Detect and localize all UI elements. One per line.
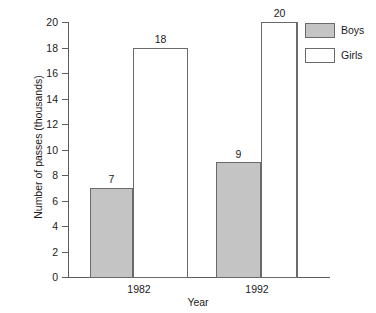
legend-item-boys[interactable]: Boys	[305, 20, 373, 40]
y-tick-mark	[62, 252, 68, 253]
bar-chart: 20 18 16 14 12 10 8 6 4 2 0 7 18 9 20 19…	[0, 0, 376, 313]
y-tick-mark	[62, 277, 68, 278]
y-tick-mark	[62, 124, 68, 125]
legend-label-boys: Boys	[341, 24, 364, 36]
legend-label-girls: Girls	[341, 49, 363, 61]
y-tick-mark	[62, 73, 68, 74]
bar-value-boys-1982: 7	[91, 174, 132, 185]
bar-girls-1982[interactable]	[133, 48, 188, 279]
bar-value-boys-1992: 9	[218, 149, 259, 160]
legend-swatch-girls-icon	[305, 48, 335, 63]
bar-girls-1992[interactable]	[261, 22, 297, 278]
y-axis-title: Number of passes (thousands)	[32, 47, 44, 247]
group-separator-line	[297, 22, 298, 278]
y-tick-mark	[62, 175, 68, 176]
legend: Boys Girls	[305, 20, 373, 70]
y-tick-mark	[62, 201, 68, 202]
y-tick-label: 20	[18, 17, 58, 27]
y-tick-label: 2	[18, 247, 58, 257]
bar-boys-1982[interactable]	[90, 188, 133, 278]
y-axis-line	[68, 22, 69, 278]
y-tick-mark	[62, 150, 68, 151]
x-axis-title: Year	[148, 296, 248, 308]
legend-item-girls[interactable]: Girls	[305, 45, 373, 65]
y-tick-mark	[62, 48, 68, 49]
x-category-label-1982: 1982	[109, 283, 169, 295]
y-tick-mark	[62, 22, 68, 23]
bar-value-girls-1992: 20	[259, 8, 300, 19]
x-category-label-1992: 1992	[227, 283, 287, 295]
y-tick-mark	[62, 99, 68, 100]
y-tick-label: 0	[18, 272, 58, 282]
bar-value-girls-1982: 18	[140, 34, 181, 45]
bar-boys-1992[interactable]	[216, 162, 261, 278]
legend-swatch-boys-icon	[305, 23, 335, 38]
y-tick-mark	[62, 226, 68, 227]
